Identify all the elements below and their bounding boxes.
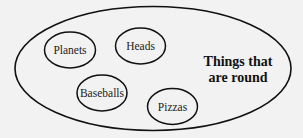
outer-set-label-line1: Things that <box>204 54 273 69</box>
member-pizzas: Pizzas <box>148 89 198 125</box>
venn-diagram: Planets Heads Baseballs Pizzas Things th… <box>0 0 303 138</box>
member-planets: Planets <box>45 32 96 68</box>
outer-set-label-line2: are round <box>209 70 268 85</box>
heads-label: Heads <box>126 40 155 52</box>
planets-label: Planets <box>53 44 87 56</box>
member-baseballs: Baseballs <box>77 75 127 111</box>
member-heads: Heads <box>116 28 166 64</box>
pizzas-label: Pizzas <box>158 101 188 113</box>
outer-set-label: Things that are round <box>204 54 273 85</box>
baseballs-label: Baseballs <box>80 87 125 99</box>
